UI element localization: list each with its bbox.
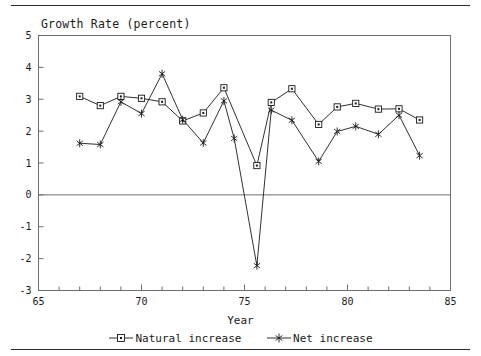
data-point-marker-center xyxy=(141,97,143,99)
y-axis-tick-label: 1 xyxy=(25,158,31,169)
data-point-marker-center xyxy=(120,95,122,97)
y-axis-tick-label: -2 xyxy=(19,253,31,264)
data-point-marker xyxy=(353,122,359,130)
y-axis-tick-label: 4 xyxy=(25,62,31,73)
data-point-marker xyxy=(417,152,423,160)
x-axis-tick-label: 70 xyxy=(135,296,147,307)
x-axis-title: Year xyxy=(0,314,481,327)
data-point-marker xyxy=(375,130,381,138)
y-axis-tick-label: 0 xyxy=(25,189,31,200)
data-point-marker xyxy=(231,134,237,142)
asterisk-marker-icon xyxy=(266,332,292,344)
legend-item-net-increase: Net increase xyxy=(266,331,372,345)
y-axis-tick-label: 5 xyxy=(25,30,31,41)
data-point-marker-center xyxy=(223,87,225,89)
figure-container: Growth Rate (percent) -3-2-1012345657075… xyxy=(0,0,481,356)
legend-label-natural-increase: Natural increase xyxy=(135,332,241,345)
data-point-marker-center xyxy=(318,123,320,125)
square-marker-icon xyxy=(108,332,134,344)
data-point-marker-center xyxy=(99,105,101,107)
series-natural-increase xyxy=(77,85,423,169)
data-point-marker xyxy=(159,70,165,78)
y-axis-tick-label: -3 xyxy=(19,285,31,296)
x-axis-tick-label: 65 xyxy=(32,296,44,307)
data-point-marker-center xyxy=(336,106,338,108)
legend-label-net-increase: Net increase xyxy=(293,332,372,345)
x-axis-tick-label: 85 xyxy=(444,296,456,307)
series-group xyxy=(77,70,423,270)
data-point-marker-center xyxy=(355,102,357,104)
y-axis-tick-label: 2 xyxy=(25,126,31,137)
data-point-marker xyxy=(254,262,260,270)
plot-frame xyxy=(39,36,451,291)
plot-area: -3-2-10123456570758085 xyxy=(0,0,481,356)
data-point-marker-center xyxy=(161,101,163,103)
data-point-marker-center xyxy=(398,108,400,110)
axes-group: -3-2-10123456570758085 xyxy=(19,30,456,306)
data-point-marker xyxy=(221,97,227,105)
series-line xyxy=(80,88,420,166)
data-point-marker-center xyxy=(256,165,258,167)
series-net-increase xyxy=(77,70,423,270)
y-axis-tick-label: 3 xyxy=(25,94,31,105)
data-point-marker-center xyxy=(377,108,379,110)
y-axis-tick-label: -1 xyxy=(19,221,31,232)
data-point-marker xyxy=(138,110,144,118)
series-line xyxy=(80,74,420,266)
data-point-marker-center xyxy=(291,88,293,90)
chart-legend: Natural increase Net increase xyxy=(0,331,481,345)
legend-item-natural-increase: Natural increase xyxy=(108,331,241,345)
data-point-marker xyxy=(396,111,402,119)
data-point-marker-center xyxy=(79,95,81,97)
data-point-marker-center xyxy=(270,101,272,103)
data-point-marker-center xyxy=(419,119,421,121)
x-axis-tick-label: 75 xyxy=(238,296,250,307)
data-point-marker-center xyxy=(202,112,204,114)
x-axis-tick-label: 80 xyxy=(341,296,353,307)
